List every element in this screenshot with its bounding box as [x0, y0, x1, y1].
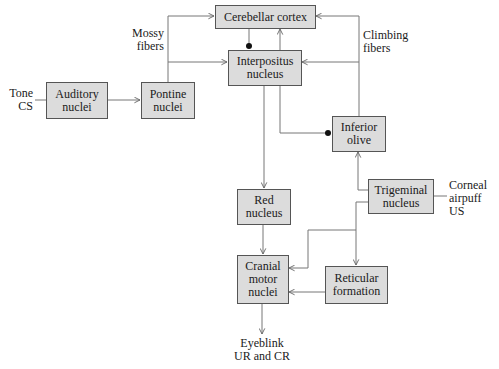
node-label: Cranial motor nuclei — [245, 260, 280, 299]
node-auditory-nuclei: Auditory nuclei — [46, 82, 108, 119]
edge-pontine-to-cortex — [168, 16, 214, 82]
node-label: Trigeminal nucleus — [375, 184, 428, 210]
node-inferior-olive: Inferior olive — [332, 116, 386, 152]
edge-olive-to-cortex — [316, 16, 359, 116]
edge-trigeminal-to-cranial — [289, 230, 356, 268]
node-trigeminal-nucleus: Trigeminal nucleus — [368, 179, 434, 214]
node-label: Interpositus nucleus — [237, 55, 294, 81]
label-corneal-airpuff-us: Corneal airpuff US — [449, 179, 499, 218]
node-cranial-motor-nuclei: Cranial motor nuclei — [237, 255, 289, 304]
node-label: Red nucleus — [246, 194, 283, 220]
node-label: Cerebellar cortex — [224, 11, 307, 24]
label-mossy-fibers: Mossy fibers — [122, 27, 164, 53]
inhibitory-terminal-olive — [325, 130, 331, 136]
node-label: Pontine nuclei — [150, 88, 187, 114]
inhibitory-terminal-cortex — [246, 43, 252, 49]
edge-trigeminal-to-reticular — [356, 202, 368, 265]
node-label: Reticular formation — [333, 272, 380, 298]
node-reticular-formation: Reticular formation — [325, 266, 388, 304]
node-cerebellar-cortex: Cerebellar cortex — [215, 5, 316, 29]
node-label: Inferior olive — [341, 121, 378, 147]
edge-trigeminal-to-olive — [358, 152, 368, 190]
label-eyeblink-ur-cr: Eyeblink UR and CR — [222, 337, 302, 363]
node-label: Auditory nuclei — [55, 88, 98, 114]
label-tone-cs: Tone CS — [2, 87, 33, 113]
node-red-nucleus: Red nucleus — [237, 189, 291, 225]
node-pontine-nuclei: Pontine nuclei — [141, 82, 195, 119]
label-climbing-fibers: Climbing fibers — [363, 29, 423, 55]
edge-interpositus-to-olive — [280, 85, 326, 133]
node-interpositus-nucleus: Interpositus nucleus — [228, 50, 302, 86]
